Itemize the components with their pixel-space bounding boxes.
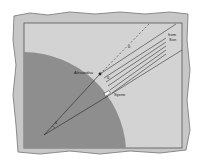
diagram bbox=[0, 0, 200, 168]
label-angle-alexandria: θ bbox=[107, 76, 109, 80]
label-angle-top: θ bbox=[128, 45, 130, 49]
label-alexandria: Alexandria bbox=[74, 71, 93, 75]
label-angle-center: θ bbox=[55, 121, 57, 125]
alexandria-point bbox=[99, 73, 102, 76]
label-sun: Sun bbox=[169, 38, 176, 42]
label-syene: Syene bbox=[114, 93, 125, 97]
